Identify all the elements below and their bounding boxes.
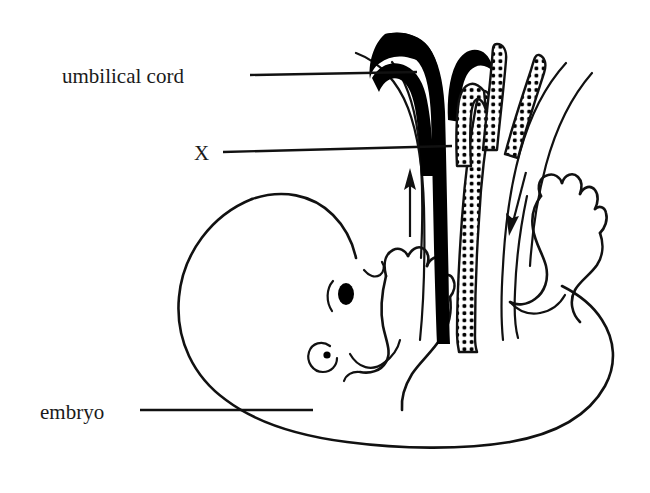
label-embryo: embryo [40, 400, 104, 424]
embryo-umbilical-cord-diagram: umbilical cord X embryo [0, 0, 650, 493]
label-umbilical-cord: umbilical cord [62, 64, 184, 88]
figure-canvas: umbilical cord X embryo [0, 0, 650, 493]
label-x: X [194, 141, 209, 165]
